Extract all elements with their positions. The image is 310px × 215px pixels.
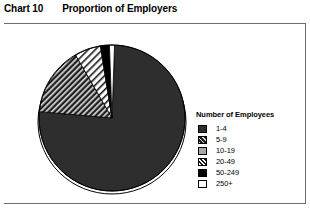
legend-item-1-4: 1-4 (196, 123, 300, 134)
pie-chart-svg (30, 36, 195, 201)
legend-item-20-49: 20-49 (196, 156, 300, 167)
legend-swatch-1-4 (198, 125, 207, 133)
legend-item-50-249: 50-249 (196, 167, 300, 178)
chart-page: Chart 10 Proportion of Employers (0, 0, 310, 215)
legend-swatch-20-49 (198, 158, 207, 166)
legend-swatch-10-19 (198, 147, 207, 155)
legend-label-1-4: 1-4 (216, 124, 227, 133)
legend-label-20-49: 20-49 (216, 157, 235, 166)
legend-swatch-50-249 (198, 169, 207, 177)
legend-swatch-250-plus (198, 180, 207, 188)
legend-label-250-plus: 250+ (216, 179, 233, 188)
pie-chart (30, 36, 195, 201)
chart-number-label: Chart 10 (4, 3, 43, 14)
legend-item-5-9: 5-9 (196, 134, 300, 145)
chart-header: Chart 10 Proportion of Employers (0, 3, 310, 20)
legend-label-50-249: 50-249 (216, 168, 239, 177)
legend-label-5-9: 5-9 (216, 135, 227, 144)
pie-slices (39, 45, 185, 191)
legend-swatch-5-9 (198, 136, 207, 144)
divider-bottom (4, 203, 306, 204)
legend-item-250-plus: 250+ (196, 178, 300, 189)
legend: Number of Employees 1-4 5-9 10-19 20-49 … (196, 110, 300, 189)
legend-label-10-19: 10-19 (216, 146, 235, 155)
page-title: Proportion of Employers (62, 3, 177, 14)
legend-title: Number of Employees (196, 110, 300, 119)
divider-right (305, 23, 306, 204)
divider-top (4, 23, 306, 24)
legend-item-10-19: 10-19 (196, 145, 300, 156)
